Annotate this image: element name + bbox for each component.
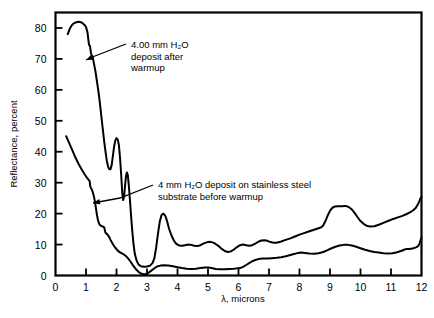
x-tick-label: 4 [175, 281, 181, 293]
x-tick-label: 12 [416, 281, 428, 293]
y-tick-label: 20 [35, 208, 47, 220]
chart-canvas: 0123456789101112 01020304050607080 4.00 … [0, 0, 434, 318]
x-tick-label: 9 [327, 281, 333, 293]
x-tick-label: 8 [297, 281, 303, 293]
x-axis-title: λ, microns [221, 293, 265, 304]
y-tick-label: 60 [35, 84, 47, 96]
y-axis-title: Reflectance, percent [8, 100, 19, 187]
chart-background [0, 0, 434, 318]
x-tick-label: 7 [266, 281, 272, 293]
x-tick-label: 2 [114, 281, 120, 293]
y-tick-label: 30 [35, 177, 47, 189]
reflectance-chart: 0123456789101112 01020304050607080 4.00 … [0, 0, 434, 318]
x-tick-label: 0 [53, 281, 59, 293]
y-axis-tick-labels: 01020304050607080 [35, 22, 47, 282]
y-tick-label: 0 [41, 270, 47, 282]
x-tick-label: 1 [83, 281, 89, 293]
y-tick-label: 80 [35, 22, 47, 34]
y-tick-label: 40 [35, 146, 47, 158]
y-tick-label: 10 [35, 239, 47, 251]
x-tick-label: 11 [386, 281, 397, 293]
x-tick-label: 5 [205, 281, 211, 293]
x-tick-label: 10 [355, 281, 367, 293]
x-tick-label: 3 [144, 281, 150, 293]
x-tick-label: 6 [236, 281, 242, 293]
y-tick-label: 50 [35, 115, 47, 127]
y-tick-label: 70 [35, 53, 47, 65]
